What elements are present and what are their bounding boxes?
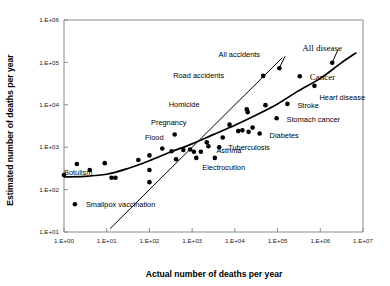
x-tick-label: 1.E+03	[182, 237, 202, 244]
data-point-all-accidents[interactable]	[277, 66, 282, 71]
y-axis-title: Estimated number of deaths per year	[5, 54, 15, 206]
data-point[interactable]	[246, 130, 251, 135]
data-point[interactable]	[236, 129, 241, 134]
y-tick-label: 1.E+02	[39, 186, 59, 193]
data-point-pregnancy[interactable]	[172, 132, 177, 137]
data-point[interactable]	[192, 149, 197, 154]
data-point-stomach-cancer[interactable]	[274, 116, 279, 121]
x-tick-label: 1.E+05	[268, 237, 288, 244]
x-tick-label: 1.E+07	[353, 237, 373, 244]
point-label-smallpox-vaccination: Smallpox vaccination	[86, 200, 155, 209]
x-axis-title: Actual number of deaths per year	[146, 269, 283, 279]
x-tick-label: 1.E+00	[54, 237, 74, 244]
x-axis-ticks: 1.E+001.E+011.E+021.E+031.E+041.E+051.E+…	[54, 228, 373, 244]
data-point[interactable]	[250, 125, 255, 130]
data-point[interactable]	[147, 180, 152, 185]
data-point-flood[interactable]	[160, 146, 165, 151]
data-point[interactable]	[220, 135, 225, 140]
data-point-cancer[interactable]	[297, 74, 302, 79]
point-label-stomach-cancer: Stomach cancer	[287, 115, 341, 124]
point-label-homicide: Homicide	[169, 100, 200, 109]
risk-perception-scatter-chart: 1.E+001.E+011.E+021.E+031.E+041.E+051.E+…	[0, 0, 390, 286]
data-point[interactable]	[199, 149, 204, 154]
chart-canvas: 1.E+001.E+011.E+021.E+031.E+041.E+051.E+…	[0, 0, 390, 286]
y-tick-label: 1.E+03	[39, 143, 59, 150]
y-tick-label: 1.E+05	[39, 59, 59, 66]
x-tick-label: 1.E+02	[140, 237, 160, 244]
data-point[interactable]	[204, 140, 209, 145]
data-point[interactable]	[263, 103, 268, 108]
data-point-electrocution[interactable]	[194, 156, 199, 161]
data-point[interactable]	[102, 161, 107, 166]
y-tick-label: 1.E+01	[39, 228, 59, 235]
point-label-heart-disease: Heart disease	[319, 93, 365, 102]
data-point[interactable]	[245, 110, 250, 115]
data-point-stroke[interactable]	[285, 102, 290, 107]
data-point[interactable]	[213, 156, 218, 161]
x-tick-label: 1.E+06	[310, 237, 330, 244]
data-point[interactable]	[147, 168, 152, 173]
point-label-stroke: Stroke	[297, 101, 318, 110]
point-label-pregnancy: Pregnancy	[151, 118, 187, 127]
data-point-smallpox-vaccination[interactable]	[73, 202, 78, 207]
x-tick-label: 1.E+01	[97, 237, 117, 244]
data-point[interactable]	[113, 175, 118, 180]
data-point-asthma[interactable]	[206, 144, 211, 149]
point-label-botulism: Botulism	[64, 168, 92, 177]
data-point[interactable]	[174, 157, 179, 162]
point-label-flood: Flood	[145, 133, 164, 142]
point-label-road-accidents: Road accidents	[173, 71, 224, 80]
point-label-all-accidents: All accidents	[219, 50, 261, 59]
y-tick-label: 1.E+06	[39, 16, 59, 23]
data-point[interactable]	[169, 149, 174, 154]
data-point[interactable]	[147, 153, 152, 158]
point-label-diabetes: Diabetes	[270, 131, 299, 140]
data-point[interactable]	[227, 122, 232, 127]
data-point[interactable]	[181, 148, 186, 153]
data-point[interactable]	[240, 128, 245, 133]
data-point-road-accidents[interactable]	[261, 74, 266, 79]
data-point[interactable]	[136, 158, 141, 163]
point-labels-layer: Smallpox vaccinationBotulismFloodPregnan…	[64, 43, 365, 209]
data-point-heart-disease[interactable]	[312, 84, 317, 89]
data-point-diabetes[interactable]	[257, 131, 262, 136]
point-label-cancer: Cancer	[310, 72, 335, 82]
point-label-electrocution: Electrocution	[202, 163, 245, 172]
y-tick-label: 1.E+04	[39, 101, 59, 108]
point-label-all-disease: All disease	[302, 43, 342, 53]
data-point-all-disease[interactable]	[330, 60, 335, 65]
data-point[interactable]	[75, 162, 80, 167]
point-label-tuberculosis: Tuberculosis	[228, 143, 270, 152]
x-tick-label: 1.E+04	[225, 237, 245, 244]
